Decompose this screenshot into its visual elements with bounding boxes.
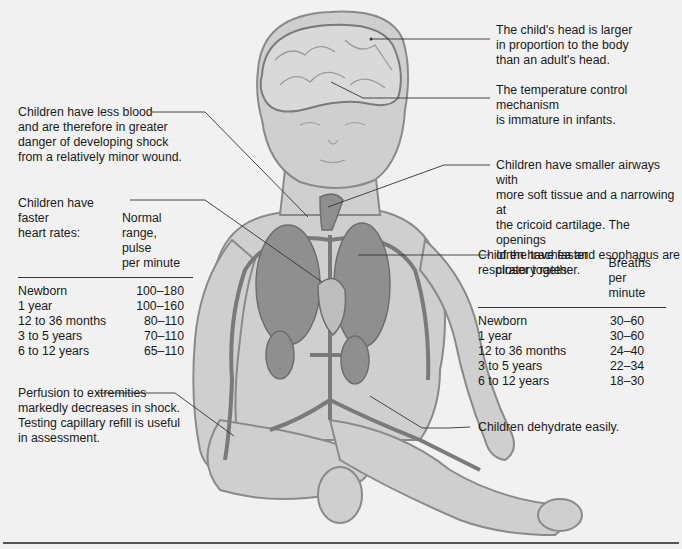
right-foot [538, 499, 582, 531]
age-cell: 12 to 36 months [18, 314, 136, 329]
callout-blood: Children have less blood and are therefo… [18, 105, 182, 165]
rate-cell: 24–40 [610, 344, 658, 359]
table-row: 6 to 12 years65–110 [18, 344, 193, 359]
rate-cell: 100–180 [136, 284, 184, 299]
right-kidney [341, 336, 369, 384]
heart-table-rule [18, 277, 193, 278]
left-foot [318, 467, 362, 523]
rate-cell: 30–60 [610, 329, 658, 344]
age-cell: 1 year [478, 329, 610, 344]
table-row: 12 to 36 months24–40 [478, 344, 666, 359]
table-row: Newborn100–180 [18, 284, 193, 299]
bottom-divider [3, 542, 679, 544]
resp-table-rule [478, 307, 666, 308]
table-row: 3 to 5 years70–110 [18, 329, 193, 344]
callout-head: The child's head is larger in proportion… [496, 23, 632, 68]
age-cell: 6 to 12 years [478, 374, 610, 389]
left-kidney [266, 331, 294, 379]
heart-rate-table: Children have faster heart rates: Normal… [18, 196, 193, 359]
age-cell: Newborn [18, 284, 136, 299]
age-cell: Newborn [478, 314, 610, 329]
respiratory-rate-table: Children have faster respiratory rates: … [478, 248, 666, 389]
heart-table-header: Normal range, pulse per minute [122, 211, 193, 271]
brain [261, 25, 401, 112]
age-cell: 3 to 5 years [478, 359, 610, 374]
rate-cell: 80–110 [136, 314, 184, 329]
table-row: 3 to 5 years22–34 [478, 359, 666, 374]
callout-dehydrate: Children dehydrate easily. [478, 420, 619, 435]
age-cell: 1 year [18, 299, 136, 314]
callout-perfusion: Perfusion to extremities markedly decrea… [18, 386, 180, 446]
table-row: 1 year100–160 [18, 299, 193, 314]
resp-table-header: Breaths per minute [609, 256, 666, 301]
rate-cell: 30–60 [610, 314, 658, 329]
rate-cell: 18–30 [610, 374, 658, 389]
table-row: 6 to 12 years18–30 [478, 374, 666, 389]
leader-dot-head [370, 38, 373, 41]
table-row: Newborn30–60 [478, 314, 666, 329]
rate-cell: 22–34 [610, 359, 658, 374]
table-row: 12 to 36 months80–110 [18, 314, 193, 329]
rate-cell: 65–110 [136, 344, 184, 359]
rate-cell: 70–110 [136, 329, 184, 344]
rate-cell: 100–160 [136, 299, 184, 314]
age-cell: 6 to 12 years [18, 344, 136, 359]
callout-temperature: The temperature control mechanism is imm… [496, 83, 682, 128]
table-row: 1 year30–60 [478, 329, 666, 344]
age-cell: 3 to 5 years [18, 329, 136, 344]
heart-table-title: Children have faster heart rates: [18, 196, 122, 271]
age-cell: 12 to 36 months [478, 344, 610, 359]
resp-table-title: Children have faster respiratory rates: [478, 248, 609, 301]
